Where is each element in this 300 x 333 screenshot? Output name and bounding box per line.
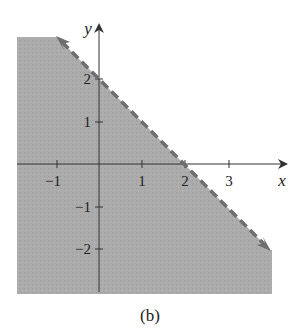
y-tick-label: −1 xyxy=(75,199,91,215)
chart-canvas: −1 1 2 3 2 1 −1 −2 x y xyxy=(0,0,300,333)
x-tick-label: −1 xyxy=(45,173,61,189)
shaded-region xyxy=(17,37,272,294)
x-axis-label: x xyxy=(277,171,286,190)
y-tick-label: 1 xyxy=(84,114,92,130)
x-tick-label: 1 xyxy=(138,173,146,189)
x-tick-label: 2 xyxy=(181,173,189,189)
y-tick-label: 2 xyxy=(84,71,92,87)
x-tick-label: 3 xyxy=(225,173,233,189)
y-axis-label: y xyxy=(82,19,92,38)
y-tick-label: −2 xyxy=(75,241,91,257)
figure-caption: (b) xyxy=(0,306,300,326)
